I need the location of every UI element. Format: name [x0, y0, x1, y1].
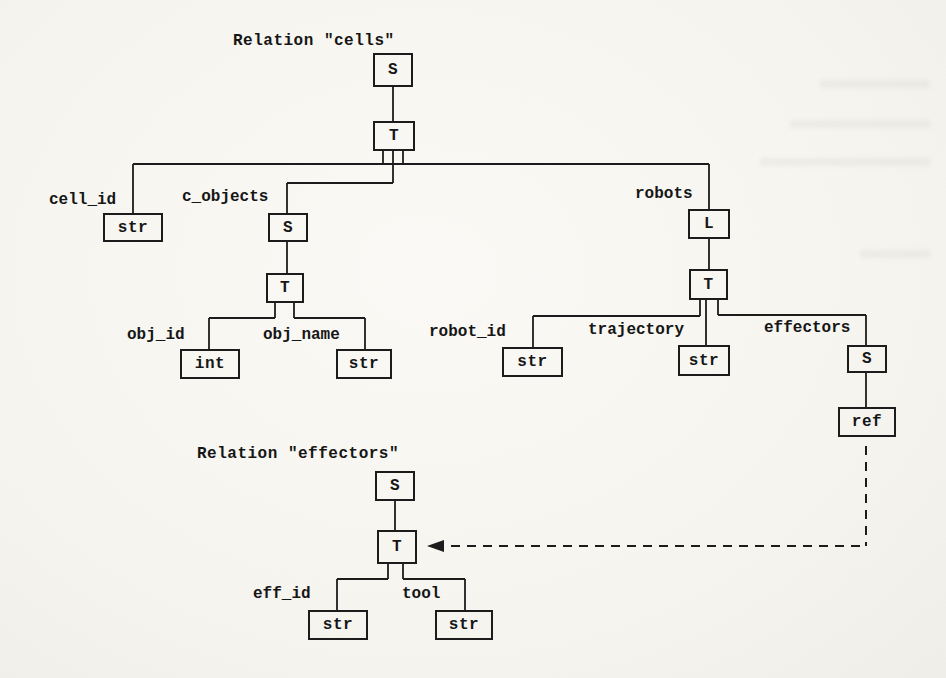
- node-c-objects-tuple: T: [266, 273, 304, 303]
- node-eff-id-type: str: [308, 610, 368, 640]
- relation-effectors-title: Relation "effectors": [197, 446, 399, 462]
- node-robot-id-type: str: [502, 347, 563, 377]
- node-cell-id-type: str: [103, 213, 163, 242]
- relation-cells-title: Relation "cells": [233, 33, 395, 49]
- attr-label-effectors: effectors: [764, 320, 850, 336]
- scan-artifact: [860, 250, 930, 258]
- scan-artifact: [820, 80, 930, 88]
- node-trajectory-type: str: [678, 345, 730, 376]
- node-eff-tuple: T: [377, 530, 417, 564]
- node-robots-tuple: T: [689, 269, 728, 300]
- attr-label-cell-id: cell_id: [49, 192, 116, 208]
- attr-label-eff-id: eff_id: [253, 586, 311, 602]
- node-robots-list: L: [688, 209, 730, 239]
- node-cells-tuple: T: [373, 121, 415, 151]
- node-eff-root-set: S: [375, 471, 415, 501]
- attr-label-obj-id: obj_id: [127, 327, 185, 343]
- attr-label-obj-name: obj_name: [263, 327, 340, 343]
- node-effectors-set: S: [847, 345, 887, 373]
- reference-arrow-dashed-path: [444, 446, 866, 546]
- attr-label-robot-id: robot_id: [429, 324, 506, 340]
- node-cells-root-set: S: [373, 53, 413, 87]
- scan-artifact: [760, 158, 930, 166]
- attr-label-robots: robots: [635, 186, 693, 202]
- attr-label-c-objects: c_objects: [182, 189, 268, 205]
- node-effectors-ref: ref: [838, 407, 896, 437]
- attr-label-tool: tool: [402, 586, 440, 602]
- node-tool-type: str: [435, 610, 493, 640]
- arrowhead-left-icon: [427, 540, 444, 552]
- node-c-objects-set: S: [268, 213, 308, 242]
- node-obj-name-type: str: [336, 349, 392, 379]
- attr-label-trajectory: trajectory: [588, 322, 684, 338]
- node-obj-id-type: int: [180, 349, 240, 379]
- scan-artifact: [790, 120, 930, 128]
- scanned-schema-diagram: Relation "cells" Relation "effectors" S …: [0, 0, 946, 678]
